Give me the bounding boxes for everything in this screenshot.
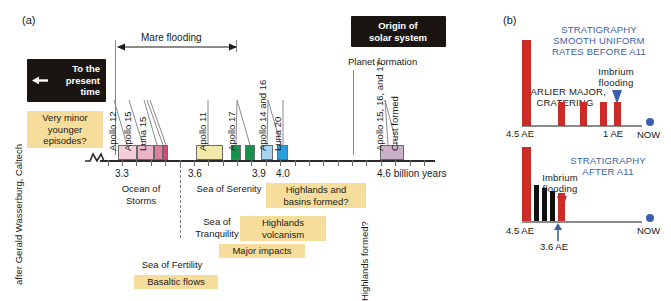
ocean-of-storms-line1: Ocean of bbox=[104, 183, 178, 195]
earlier-cratering-line1: EARLIER MAJOR, bbox=[524, 86, 606, 97]
axis-tick bbox=[237, 160, 238, 166]
highlands-basins-line2: basins formed? bbox=[270, 196, 362, 208]
chart-top-x-mid-label: 1 AE bbox=[603, 128, 623, 139]
axis-tick bbox=[208, 160, 209, 166]
chart-top-title-line3: RATES BEFORE A11 bbox=[538, 46, 660, 57]
axis-tick bbox=[395, 160, 396, 166]
chart-top-bar-3 bbox=[580, 102, 587, 126]
axis-tick bbox=[410, 160, 411, 166]
panel-a-letter: (a) bbox=[22, 14, 35, 26]
axis-tick bbox=[309, 160, 310, 166]
chart-top-title-line1: STRATIGRAPHY bbox=[538, 24, 660, 35]
axis-tick bbox=[122, 160, 123, 166]
sample-label-apollo-15-16-17: Apollo 15, 16, and 17 bbox=[374, 61, 385, 151]
origin-of-solar-system-callout: Origin of solar system bbox=[351, 16, 446, 47]
highlands-basins-line1: Highlands and bbox=[270, 184, 362, 196]
very-minor-line1: Very minor bbox=[31, 112, 99, 124]
chart-bottom-x-start-label: 4.5 AE bbox=[506, 225, 534, 236]
very-minor-line3: episodes? bbox=[31, 135, 99, 147]
chart-top-title-line2: SMOOTH UNIFORM bbox=[538, 35, 660, 46]
axis-tick bbox=[266, 160, 267, 166]
axis-tick bbox=[280, 160, 281, 166]
chart-top-x-start-label: 4.5 AE bbox=[506, 128, 534, 139]
chart-bottom-marker-label: 3.6 AE bbox=[540, 241, 568, 252]
highlands-volcanism-callout: Highlands volcanism bbox=[240, 216, 326, 241]
axis-tick bbox=[323, 160, 324, 166]
axis-tick-label-3-9: 3.9 bbox=[252, 168, 266, 179]
axis-tick bbox=[151, 160, 152, 166]
sample-label-luna-20: Luna 20 bbox=[272, 117, 283, 151]
axis-tick bbox=[352, 160, 353, 166]
highlands-volcanism-line1: Highlands bbox=[244, 217, 322, 229]
chart-top-bar-1 bbox=[522, 40, 531, 126]
stratigraphy-before-a11-chart: STRATIGRAPHY SMOOTH UNIFORM RATES BEFORE… bbox=[500, 24, 665, 144]
origin-line2: solar system bbox=[356, 32, 440, 44]
highlands-formed-label: Highlands formed? bbox=[359, 221, 370, 301]
sample-label-apollo-17: Apollo 17 bbox=[226, 111, 237, 151]
sea-of-serenity-label: Sea of Serenity bbox=[184, 183, 274, 195]
sample-label-apollo-15: Apollo 15 bbox=[122, 111, 133, 151]
basaltic-flows-callout: Basaltic flows bbox=[134, 275, 218, 289]
axis-tick bbox=[366, 160, 367, 166]
chart-bottom-bar-1 bbox=[522, 147, 531, 221]
axis-tick bbox=[251, 160, 252, 166]
chart-top-now-dot bbox=[646, 118, 654, 126]
chart-top-bar-4 bbox=[600, 102, 607, 126]
axis-tick-label-3-6: 3.6 bbox=[188, 168, 202, 179]
mare-flooding-label: Mare flooding bbox=[138, 32, 205, 43]
axis-tick bbox=[223, 160, 224, 166]
chart-bottom-now-dot bbox=[646, 214, 654, 222]
chart-bottom-bar-3 bbox=[542, 188, 547, 221]
ocean-of-storms-line2: Storms bbox=[104, 195, 178, 207]
chart-top-bar-5 bbox=[614, 102, 621, 126]
chart-top-bar-2 bbox=[558, 102, 565, 126]
to-present-line3: time bbox=[32, 86, 100, 98]
axis-tick bbox=[424, 160, 425, 166]
sample-label-crust-formed: Crust formed bbox=[389, 96, 400, 151]
imbrium-flooding-bottom-line1: Imbrium bbox=[532, 172, 588, 183]
chart-bottom-bar-4 bbox=[550, 191, 555, 221]
ocean-of-storms-label: Ocean of Storms bbox=[104, 183, 178, 206]
chart-top-now-label: NOW bbox=[637, 129, 660, 140]
to-present-line1: To the bbox=[32, 63, 100, 75]
sample-label-luna-15: Luna 15 bbox=[137, 117, 148, 151]
axis-tick bbox=[108, 160, 109, 166]
axis-tick bbox=[165, 160, 166, 166]
sample-label-apollo-14-16: Apollo 14 and 16 bbox=[257, 80, 268, 151]
imbrium-flooding-top-line1: Imbrium bbox=[588, 66, 644, 77]
to-present-time-callout: To the present time bbox=[27, 59, 106, 102]
sea-of-fertility-label: Sea of Fertility bbox=[130, 259, 214, 271]
stratigraphy-after-a11-chart: STRATIGRAPHY AFTER A11 Imbrium flooding … bbox=[500, 155, 665, 280]
axis-break-icon bbox=[85, 151, 105, 163]
left-arrow-icon bbox=[32, 76, 48, 84]
axis-tick bbox=[381, 160, 382, 166]
highlands-basins-callout: Highlands and basins formed? bbox=[266, 183, 366, 208]
axis-tick bbox=[295, 160, 296, 166]
major-impacts-callout: Major impacts bbox=[219, 244, 305, 258]
axis-tick bbox=[338, 160, 339, 166]
credit-text: after Gerald Wasserburg, Caltech bbox=[13, 144, 24, 285]
sample-label-apollo-11: Apollo 11 bbox=[197, 112, 208, 151]
very-minor-line2: younger bbox=[31, 124, 99, 136]
figure-credit: after Gerald Wasserburg, Caltech bbox=[2, 70, 16, 290]
very-minor-episodes-callout: Very minor younger episodes? bbox=[27, 111, 103, 148]
axis-tick-label-4-0: 4.0 bbox=[276, 168, 290, 179]
axis-unit-label: 4.6 billion years bbox=[377, 168, 446, 179]
sample-label-apollo-12: Apollo 12 bbox=[107, 111, 118, 151]
origin-line1: Origin of bbox=[356, 20, 440, 32]
highlands-volcanism-line2: volcanism bbox=[244, 229, 322, 241]
chart-bottom-x-axis bbox=[522, 221, 642, 223]
chart-bottom-bar-2 bbox=[534, 185, 539, 221]
axis-tick bbox=[194, 160, 195, 166]
axis-tick-label-3-3: 3.3 bbox=[115, 168, 129, 179]
axis-tick bbox=[136, 160, 137, 166]
chart-bottom-title-line1: STRATIGRAPHY bbox=[556, 155, 660, 166]
chart-bottom-now-label: NOW bbox=[637, 225, 660, 236]
earlier-cratering-line2: CRATERING bbox=[524, 97, 606, 108]
chart-bottom-bar-5 bbox=[558, 193, 565, 221]
three-point-six-arrow-icon bbox=[552, 223, 564, 241]
